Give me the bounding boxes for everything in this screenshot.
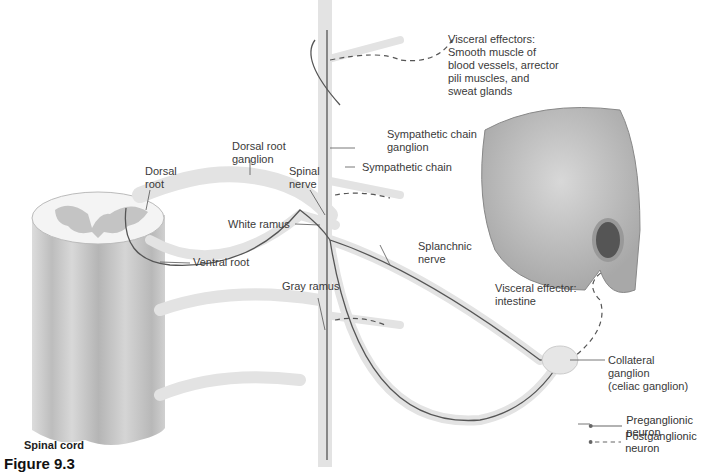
label-sympathetic-chain-ganglion: Sympathetic chain ganglion [387, 128, 477, 154]
label-splanchnic-nerve: Splanchnic nerve [418, 240, 472, 266]
label-gray-ramus: Gray ramus [282, 280, 339, 293]
label-visceral-effectors: Visceral effectors: Smooth muscle of blo… [448, 33, 559, 98]
spinal-cord [32, 192, 165, 445]
label-collateral-ganglion: Collateral ganglion (celiac ganglion) [608, 354, 688, 393]
figure-number: Figure 9.3 [4, 455, 75, 472]
label-dorsal-root-ganglion: Dorsal root ganglion [232, 140, 286, 166]
legend-item-postganglionic: Postganglionic neuron [588, 434, 720, 450]
label-spinal-nerve: Spinal nerve [289, 165, 320, 191]
dashed-line-icon [588, 438, 621, 446]
legend: Preganglionic neuron Postganglionic neur… [588, 418, 720, 450]
label-visceral-effector-intestine: Visceral effector: intestine [495, 282, 577, 308]
label-white-ramus: White ramus [228, 218, 290, 231]
intestine-illustration [482, 108, 640, 293]
label-ventral-root: Ventral root [193, 256, 249, 269]
label-spinal-cord: Spinal cord [24, 439, 84, 452]
legend-label: Postganglionic neuron [625, 430, 720, 454]
label-dorsal-root: Dorsal root [145, 165, 177, 191]
label-sympathetic-chain: Sympathetic chain [362, 161, 452, 174]
solid-line-icon [588, 422, 622, 430]
